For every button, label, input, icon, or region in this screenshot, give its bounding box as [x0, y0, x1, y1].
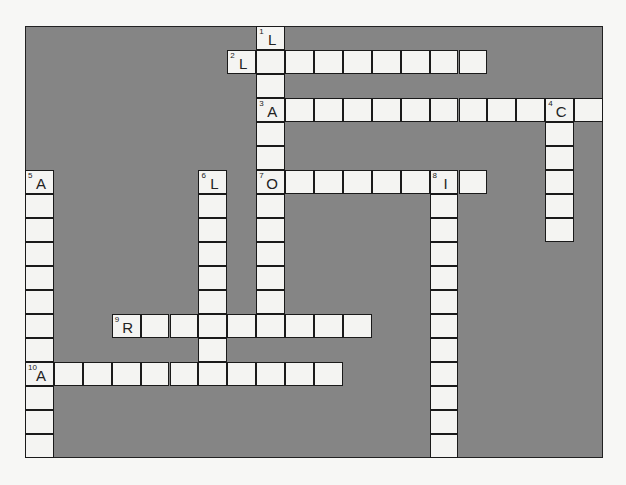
crossword-cell[interactable]	[256, 362, 285, 386]
cell-letter: A	[26, 367, 53, 384]
crossword-cell[interactable]	[198, 242, 227, 266]
crossword-cell[interactable]	[83, 362, 112, 386]
crossword-cell[interactable]	[170, 314, 199, 338]
crossword-cell[interactable]	[545, 194, 574, 218]
crossword-cell[interactable]	[401, 50, 430, 74]
crossword-cell[interactable]	[430, 266, 459, 290]
crossword-cell[interactable]	[516, 98, 545, 122]
crossword-cell[interactable]	[430, 290, 459, 314]
crossword-cell[interactable]	[170, 362, 199, 386]
crossword-cell[interactable]	[285, 98, 314, 122]
crossword-cell[interactable]	[285, 314, 314, 338]
crossword-cell[interactable]	[314, 98, 343, 122]
crossword-cell[interactable]	[198, 314, 227, 338]
crossword-cell[interactable]	[430, 386, 459, 410]
crossword-cell[interactable]	[430, 98, 459, 122]
crossword-cell[interactable]	[430, 218, 459, 242]
crossword-cell[interactable]	[256, 218, 285, 242]
cell-letter: L	[228, 55, 255, 72]
crossword-cell[interactable]	[285, 170, 314, 194]
cell-letter: A	[26, 175, 53, 192]
crossword-cell[interactable]	[198, 290, 227, 314]
crossword-cell[interactable]: 3A	[256, 98, 285, 122]
crossword-cell[interactable]	[256, 194, 285, 218]
crossword-cell[interactable]	[343, 50, 372, 74]
crossword-cell[interactable]	[256, 266, 285, 290]
crossword-cell[interactable]	[401, 170, 430, 194]
crossword-cell[interactable]: 2L	[227, 50, 256, 74]
crossword-cell[interactable]	[25, 386, 54, 410]
crossword-cell[interactable]: 9R	[112, 314, 141, 338]
crossword-cell[interactable]	[545, 218, 574, 242]
crossword-cell[interactable]	[285, 362, 314, 386]
crossword-cell[interactable]	[256, 50, 285, 74]
crossword-cell[interactable]	[430, 434, 459, 458]
cell-letter: A	[257, 103, 284, 120]
crossword-cell[interactable]	[25, 410, 54, 434]
crossword-cell[interactable]	[314, 50, 343, 74]
crossword-cell[interactable]	[343, 314, 372, 338]
crossword-cell[interactable]	[112, 362, 141, 386]
crossword-cell[interactable]	[545, 122, 574, 146]
cell-letter: O	[257, 175, 284, 192]
crossword-cell[interactable]	[141, 314, 170, 338]
crossword-cell[interactable]	[198, 362, 227, 386]
crossword-cell[interactable]: 5A	[25, 170, 54, 194]
crossword-cell[interactable]	[314, 362, 343, 386]
cell-letter: L	[257, 31, 284, 48]
crossword-cell[interactable]	[25, 242, 54, 266]
crossword-cell[interactable]	[54, 362, 83, 386]
crossword-cell[interactable]: 10A	[25, 362, 54, 386]
crossword-cell[interactable]	[343, 98, 372, 122]
crossword-cell[interactable]: 7O	[256, 170, 285, 194]
crossword-cell[interactable]	[314, 170, 343, 194]
crossword-cell[interactable]	[487, 98, 516, 122]
crossword-cell[interactable]: 6L	[198, 170, 227, 194]
crossword-cell[interactable]	[227, 362, 256, 386]
crossword-cell[interactable]	[459, 98, 488, 122]
crossword-cell[interactable]	[372, 170, 401, 194]
crossword-cell[interactable]	[430, 362, 459, 386]
crossword-cell[interactable]	[401, 98, 430, 122]
crossword-cell[interactable]	[256, 314, 285, 338]
crossword-cell[interactable]	[25, 218, 54, 242]
crossword-cell[interactable]	[285, 50, 314, 74]
crossword-cell[interactable]: 4C	[545, 98, 574, 122]
crossword-cell[interactable]	[198, 338, 227, 362]
crossword-cell[interactable]	[227, 314, 256, 338]
crossword-cell[interactable]	[314, 314, 343, 338]
crossword-cell[interactable]	[25, 266, 54, 290]
cell-letter: L	[199, 175, 226, 192]
crossword-cell[interactable]	[430, 50, 459, 74]
crossword-cell[interactable]	[545, 170, 574, 194]
crossword-cell[interactable]	[141, 362, 170, 386]
crossword-cell[interactable]	[459, 50, 488, 74]
crossword-cell[interactable]	[25, 314, 54, 338]
crossword-cell[interactable]	[198, 218, 227, 242]
crossword-cell[interactable]: 1L	[256, 26, 285, 50]
crossword-cell[interactable]	[256, 242, 285, 266]
crossword-cell[interactable]	[430, 194, 459, 218]
crossword-cell[interactable]	[256, 146, 285, 170]
crossword-cell[interactable]	[430, 242, 459, 266]
crossword-cell[interactable]	[25, 338, 54, 362]
crossword-cell[interactable]	[343, 170, 372, 194]
crossword-cell[interactable]	[25, 434, 54, 458]
crossword-cell[interactable]	[430, 314, 459, 338]
crossword-board: 1L3A7O2L4C5A10A6L8I9R	[25, 26, 603, 458]
crossword-cell[interactable]	[198, 194, 227, 218]
crossword-cell[interactable]: 8I	[430, 170, 459, 194]
crossword-cell[interactable]	[198, 266, 227, 290]
crossword-cell[interactable]	[372, 98, 401, 122]
crossword-cell[interactable]	[430, 338, 459, 362]
crossword-cell[interactable]	[574, 98, 603, 122]
crossword-cell[interactable]	[372, 50, 401, 74]
crossword-cell[interactable]	[25, 194, 54, 218]
crossword-cell[interactable]	[25, 290, 54, 314]
crossword-cell[interactable]	[256, 122, 285, 146]
crossword-cell[interactable]	[256, 74, 285, 98]
crossword-cell[interactable]	[459, 170, 488, 194]
crossword-cell[interactable]	[545, 146, 574, 170]
crossword-cell[interactable]	[430, 410, 459, 434]
crossword-cell[interactable]	[256, 290, 285, 314]
